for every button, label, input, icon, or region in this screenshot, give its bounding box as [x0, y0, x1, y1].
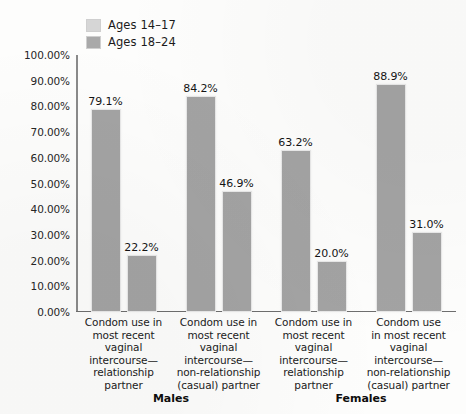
- bar[interactable]: 46.9%: [222, 191, 252, 312]
- legend-label-ages-14-17: Ages 14–17: [108, 18, 176, 32]
- bar[interactable]: 22.2%: [127, 255, 157, 312]
- legend-item-ages-14-17: Ages 14–17: [86, 18, 176, 32]
- x-tick-label-line: relationship: [78, 366, 169, 379]
- y-tick-label: 80.00%: [31, 100, 70, 112]
- x-tick-label: Condom use inmost recentvaginalintercour…: [266, 316, 361, 392]
- bar-groups: 79.1%22.2%84.2%46.9%63.2%20.0%88.9%31.0%: [76, 55, 456, 312]
- x-tick-label-line: vaginal: [78, 341, 169, 354]
- x-tick-label-line: partner: [78, 379, 169, 392]
- x-tick-label-line: Condom use in: [173, 316, 264, 329]
- bar-slot: 79.1%: [91, 55, 121, 312]
- bar-value-label: 31.0%: [409, 218, 443, 231]
- y-tick-label: 0.00%: [37, 306, 70, 318]
- bar-value-label: 22.2%: [124, 241, 158, 254]
- x-tick-label: Condom use inmost recentvaginalintercour…: [76, 316, 171, 392]
- y-axis-tick-labels: 100.00%90.00%80.00%70.00%60.00%50.00%40.…: [4, 55, 70, 312]
- legend-label-ages-18-24: Ages 18–24: [108, 35, 176, 49]
- bar-slot: 46.9%: [222, 55, 252, 312]
- x-tick-label-line: intercourse—: [173, 354, 264, 367]
- bar[interactable]: 84.2%: [186, 96, 216, 312]
- bar[interactable]: 31.0%: [412, 232, 442, 312]
- y-tick-label: 40.00%: [31, 203, 70, 215]
- x-tick-label: Condom usein most recentvaginalintercour…: [361, 316, 456, 392]
- bar-group: 88.9%31.0%: [361, 55, 456, 312]
- bar-chart: Ages 14–17 Ages 18–24 100.00%90.00%80.00…: [0, 0, 466, 414]
- y-tick-label: 20.00%: [31, 255, 70, 267]
- x-tick-label-line: relationship: [268, 366, 359, 379]
- bar-group: 84.2%46.9%: [171, 55, 266, 312]
- y-tick-label: 70.00%: [31, 126, 70, 138]
- bar[interactable]: 20.0%: [317, 261, 347, 312]
- x-tick-label-line: (casual) partner: [173, 379, 264, 392]
- x-tick-label-line: most recent: [268, 329, 359, 342]
- y-tick-label: 100.00%: [24, 49, 70, 61]
- bar-slot: 84.2%: [186, 55, 216, 312]
- x-tick-label-line: non-relationship: [173, 366, 264, 379]
- legend-item-ages-18-24: Ages 18–24: [86, 35, 176, 49]
- bar-value-label: 46.9%: [219, 177, 253, 190]
- x-tick-label-line: vaginal: [173, 341, 264, 354]
- bar-value-label: 88.9%: [373, 70, 407, 83]
- x-tick-label-line: vaginal: [268, 341, 359, 354]
- bar-group: 63.2%20.0%: [266, 55, 361, 312]
- bar-value-label: 63.2%: [278, 136, 312, 149]
- bar-slot: 20.0%: [317, 55, 347, 312]
- x-tick-label-line: intercourse—: [268, 354, 359, 367]
- y-tick-label: 10.00%: [31, 280, 70, 292]
- plot-area: 100.00%90.00%80.00%70.00%60.00%50.00%40.…: [76, 55, 456, 312]
- x-tick-label-line: partner: [268, 379, 359, 392]
- x-tick-label-line: in most recent: [363, 329, 454, 342]
- x-tick-label-line: non-relationship: [363, 366, 454, 379]
- x-tick-label-line: Condom use: [363, 316, 454, 329]
- bar-value-label: 84.2%: [183, 82, 217, 95]
- bar[interactable]: 79.1%: [91, 109, 121, 312]
- x-tick-label: Condom use inmost recentvaginalintercour…: [171, 316, 266, 392]
- group-label-males: Males: [76, 392, 266, 405]
- bar[interactable]: 63.2%: [281, 150, 311, 312]
- x-axis-category-labels: Condom use inmost recentvaginalintercour…: [76, 316, 456, 392]
- bar-slot: 22.2%: [127, 55, 157, 312]
- y-tick-label: 30.00%: [31, 229, 70, 241]
- group-label-females: Females: [266, 392, 456, 405]
- y-tick-label: 50.00%: [31, 178, 70, 190]
- x-tick-label-line: most recent: [173, 329, 264, 342]
- x-tick-label-line: intercourse—: [78, 354, 169, 367]
- bar-slot: 88.9%: [376, 55, 406, 312]
- y-tick-label: 60.00%: [31, 152, 70, 164]
- x-tick-label-line: most recent: [78, 329, 169, 342]
- chart-legend: Ages 14–17 Ages 18–24: [86, 18, 176, 49]
- x-tick-label-line: Condom use in: [78, 316, 169, 329]
- bar-value-label: 20.0%: [314, 247, 348, 260]
- bar[interactable]: 88.9%: [376, 84, 406, 312]
- bar-value-label: 79.1%: [88, 95, 122, 108]
- y-tick-label: 90.00%: [31, 75, 70, 87]
- legend-swatch-icon-ages-14-17: [86, 19, 101, 32]
- bar-group: 79.1%22.2%: [76, 55, 171, 312]
- bar-slot: 31.0%: [412, 55, 442, 312]
- x-axis-group-labels: Males Females: [76, 392, 456, 405]
- x-tick-label-line: vaginal: [363, 341, 454, 354]
- x-tick-label-line: intercourse—: [363, 354, 454, 367]
- x-tick-label-line: Condom use in: [268, 316, 359, 329]
- legend-swatch-icon-ages-18-24: [86, 36, 101, 49]
- x-tick-label-line: (casual) partner: [363, 379, 454, 392]
- bar-slot: 63.2%: [281, 55, 311, 312]
